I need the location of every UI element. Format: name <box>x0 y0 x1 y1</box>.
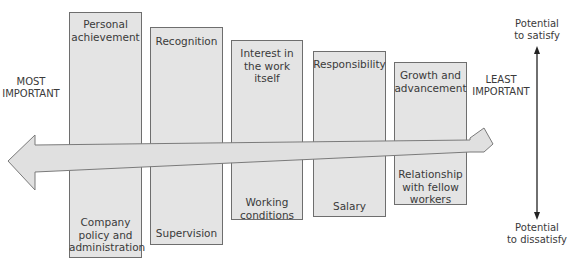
arrow-down-icon <box>534 212 540 220</box>
least-important-label: LEAST IMPORTANT <box>470 74 532 98</box>
hygiene-label: Salary <box>313 200 386 213</box>
potential-to-satisfy-label: Potential to satisfy <box>505 18 569 42</box>
motivator-label: Recognition <box>150 35 223 48</box>
hygiene-label: Working conditions <box>231 196 303 221</box>
motivator-label: Growth and advancement <box>394 69 467 94</box>
motivator-label: Interest in the work itself <box>231 47 303 85</box>
potential-to-dissatisfy-label: Potential to dissatisfy <box>505 222 569 246</box>
motivator-label: Personal achievement <box>69 18 142 43</box>
most-important-label: MOST IMPORTANT <box>0 76 62 100</box>
hygiene-label: Relationship with fellow workers <box>394 168 467 206</box>
motivator-label: Responsibility <box>313 58 386 71</box>
arrow-up-icon <box>534 46 540 54</box>
hygiene-label: Company policy and administration <box>69 216 142 254</box>
hygiene-label: Supervision <box>150 227 223 240</box>
